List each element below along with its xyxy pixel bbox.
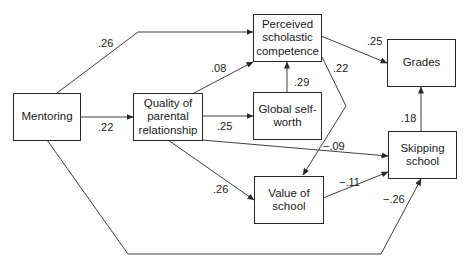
node-grades: Grades [387,39,456,87]
coef-parental-skipping: −.09 [323,140,345,152]
node-parental-relationship-label: Quality of parental relationship [139,97,198,138]
node-skipping-school-label: Skipping school [400,142,444,169]
coef-skipping-grades: .18 [401,112,416,124]
node-skipping-school: Skipping school [388,131,457,179]
node-value-of-school-label: Value of school [268,187,309,214]
edge-mentoring-to-skipping [47,140,421,254]
coef-mentoring-parental: .22 [98,121,113,133]
coef-mentoring-skipping: −.26 [383,193,405,205]
node-mentoring-label: Mentoring [21,110,72,124]
coef-parental-value: .26 [213,183,228,195]
node-parental-relationship: Quality of parental relationship [133,93,203,141]
node-global-self-worth: Global self- worth [253,92,322,140]
coef-parental-selfworth: .25 [217,120,232,132]
coef-mentoring-scholastic: .26 [98,37,113,49]
coef-scholastic-value: .22 [333,62,348,74]
node-global-self-worth-label: Global self- worth [258,103,316,130]
node-mentoring: Mentoring [13,93,81,141]
edge-parental-to-skipping [202,140,388,156]
node-scholastic-competence: Perceived scholastic competence [253,14,322,62]
node-grades-label: Grades [403,56,441,70]
coef-parental-scholastic: .08 [211,62,226,74]
coef-value-skipping: −.11 [339,176,360,188]
coef-selfworth-scholastic: .29 [294,76,309,88]
coef-scholastic-grades: .25 [367,35,382,47]
node-value-of-school: Value of school [254,176,324,224]
node-scholastic-competence-label: Perceived scholastic competence [256,18,319,59]
edge-parental-to-value [168,140,254,200]
